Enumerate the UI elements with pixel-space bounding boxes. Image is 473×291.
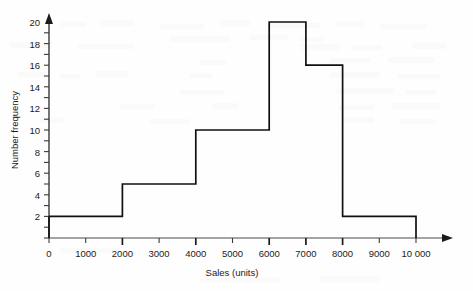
y-tick-label-16: 16: [29, 60, 40, 71]
x-tick-label-3000: 3000: [149, 248, 170, 259]
x-tick-label-6000: 6000: [259, 248, 280, 259]
y-tick-label-6: 6: [35, 168, 40, 179]
y-tick-label-2: 2: [35, 211, 40, 222]
histogram-figure: 2 4 6 8 10 12 14 16 18 20 Number frequen…: [0, 0, 473, 291]
y-tick-label-18: 18: [29, 39, 40, 50]
x-tick-label-9000: 9000: [369, 248, 390, 259]
x-tick-label-4000: 4000: [185, 248, 206, 259]
x-tick-label-10000: 10 000: [401, 248, 430, 259]
x-tick-label-0: 0: [46, 248, 51, 259]
y-tick-label-8: 8: [35, 147, 40, 158]
x-tick-label-5000: 5000: [222, 248, 243, 259]
x-axis-title: Sales (units): [206, 267, 259, 278]
x-tick-label-8000: 8000: [332, 248, 353, 259]
y-tick-label-14: 14: [29, 82, 40, 93]
histogram-chart: 2 4 6 8 10 12 14 16 18 20 Number frequen…: [0, 0, 473, 291]
y-axis-title: Number frequency: [9, 91, 20, 169]
x-tick-label-1000: 1000: [75, 248, 96, 259]
y-tick-label-20: 20: [29, 17, 40, 28]
x-tick-label-7000: 7000: [295, 248, 316, 259]
y-tick-label-4: 4: [35, 190, 40, 201]
x-tick-label-2000: 2000: [112, 248, 133, 259]
y-tick-label-10: 10: [29, 125, 40, 136]
y-tick-label-12: 12: [29, 103, 40, 114]
